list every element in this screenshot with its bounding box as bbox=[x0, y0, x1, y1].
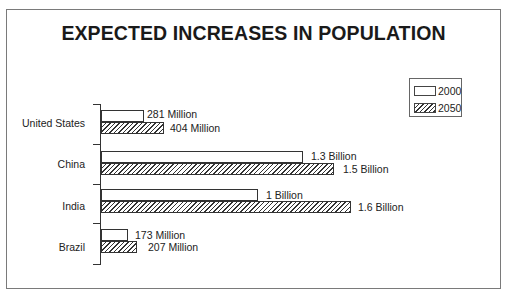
legend-item-2000: 2000 bbox=[414, 85, 461, 97]
legend-label: 2050 bbox=[438, 102, 461, 114]
bar-china-2050 bbox=[101, 163, 334, 175]
value-label: 1.5 Billion bbox=[343, 163, 389, 175]
axis-tick bbox=[93, 144, 101, 145]
category-label-united-states: United States bbox=[22, 117, 85, 129]
bar-us-2000 bbox=[101, 110, 144, 122]
value-label: 173 Million bbox=[135, 229, 185, 241]
value-label: 1.3 Billion bbox=[311, 150, 357, 162]
legend-swatch-hatched-icon bbox=[414, 103, 436, 113]
bar-india-2050 bbox=[101, 201, 351, 213]
value-label: 1 Billion bbox=[266, 189, 303, 201]
bar-china-2000 bbox=[101, 151, 303, 163]
value-label: 404 Million bbox=[170, 122, 220, 134]
bar-brazil-2050 bbox=[101, 241, 137, 253]
axis-tick bbox=[93, 264, 101, 265]
value-label: 281 Million bbox=[147, 108, 197, 120]
bar-us-2050 bbox=[101, 122, 164, 134]
category-label-india: India bbox=[62, 200, 85, 212]
axis-tick bbox=[93, 184, 101, 185]
legend-swatch-plain-icon bbox=[414, 86, 436, 96]
bar-india-2000 bbox=[101, 189, 258, 201]
bar-brazil-2000 bbox=[101, 229, 128, 241]
legend-item-2050: 2050 bbox=[414, 102, 461, 114]
legend-label: 2000 bbox=[438, 85, 461, 97]
value-label: 207 Million bbox=[148, 241, 198, 253]
chart-title: EXPECTED INCREASES IN POPULATION bbox=[0, 22, 507, 45]
axis-tick bbox=[93, 223, 101, 224]
value-label: 1.6 Billion bbox=[358, 201, 404, 213]
category-label-brazil: Brazil bbox=[59, 241, 85, 253]
legend: 2000 2050 bbox=[409, 78, 462, 117]
category-label-china: China bbox=[58, 158, 85, 170]
axis-tick bbox=[93, 104, 101, 105]
